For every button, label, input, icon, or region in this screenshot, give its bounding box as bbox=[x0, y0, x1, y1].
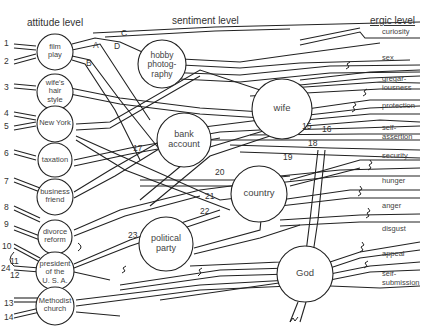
heading-attitude-level: attitude level bbox=[27, 17, 83, 28]
path-number-6: 6 bbox=[4, 148, 9, 158]
path-number-17: 17 bbox=[133, 143, 142, 153]
path-number-11: 11 bbox=[10, 256, 19, 266]
path-number-5: 5 bbox=[4, 121, 9, 131]
label-bank: bankaccount bbox=[158, 130, 210, 150]
path-number-1: 1 bbox=[4, 38, 9, 48]
path-c-bottom bbox=[105, 29, 290, 37]
path-letter-b: B bbox=[86, 58, 92, 68]
path-number-22: 22 bbox=[200, 206, 209, 216]
label-political: politicalparty bbox=[140, 234, 192, 254]
path-number-9: 9 bbox=[4, 219, 9, 229]
label-taxation: taxation bbox=[37, 156, 73, 164]
heading-ergic-level: ergic level bbox=[370, 15, 415, 26]
label-wife: wife bbox=[258, 103, 306, 113]
path-number-14: 14 bbox=[4, 312, 13, 322]
path-number-8: 8 bbox=[4, 202, 9, 212]
ergic-self-assertion: self-assertion bbox=[382, 124, 412, 141]
dynamic-lattice-diagram: attitude level sentiment level ergic lev… bbox=[0, 0, 436, 330]
path-letter-a: A bbox=[93, 40, 99, 50]
heading-sentiment-level: sentiment level bbox=[172, 15, 239, 26]
path-number-4: 4 bbox=[4, 108, 9, 118]
path-number-23: 23 bbox=[128, 230, 137, 240]
label-president: presidentof theU. S. A. bbox=[35, 260, 75, 285]
ergic-sex: sex bbox=[382, 54, 394, 63]
path-number-19: 19 bbox=[283, 152, 292, 162]
path-number-24: 24 bbox=[1, 263, 10, 273]
path-number-13: 13 bbox=[4, 298, 13, 308]
ergic-curiosity: curiosity bbox=[382, 28, 410, 37]
ergic-protection: protection bbox=[382, 102, 415, 111]
ergic-hunger: hunger bbox=[382, 177, 405, 186]
label-country: country bbox=[235, 188, 283, 198]
path-number-16: 16 bbox=[322, 124, 331, 134]
path-letter-d: D bbox=[114, 41, 120, 51]
label-wife-hair: wife'shairstyle bbox=[37, 79, 73, 104]
label-divorce-reform: divorcereform bbox=[37, 228, 73, 245]
path-number-10: 10 bbox=[2, 241, 11, 251]
ergic-anger: anger bbox=[382, 202, 401, 211]
path-number-2: 2 bbox=[4, 56, 9, 66]
ergic-appeal: appeal bbox=[382, 250, 405, 259]
path-number-3: 3 bbox=[4, 82, 9, 92]
path-number-12: 12 bbox=[10, 270, 19, 280]
label-new-york: New York bbox=[37, 119, 73, 127]
label-god: God bbox=[281, 268, 329, 278]
ergic-gregariousness: gregar-iousness bbox=[382, 75, 412, 92]
path-number-20: 20 bbox=[215, 167, 224, 177]
ergic-security: security bbox=[382, 152, 408, 161]
path-letter-c: C bbox=[121, 28, 127, 38]
label-methodist: Methodistchurch bbox=[35, 297, 75, 314]
path-number-7: 7 bbox=[4, 176, 9, 186]
label-hobby: hobbyphotog-raphy bbox=[138, 51, 186, 79]
path-number-21: 21 bbox=[205, 191, 214, 201]
ergic-self-submission: self-submission bbox=[382, 270, 420, 287]
path-number-18: 18 bbox=[308, 138, 317, 148]
label-film-play: filmplay bbox=[37, 43, 73, 60]
ergic-disgust: disgust bbox=[382, 225, 406, 234]
path-number-15: 15 bbox=[302, 121, 311, 131]
label-business-friend: businessfriend bbox=[37, 188, 73, 205]
